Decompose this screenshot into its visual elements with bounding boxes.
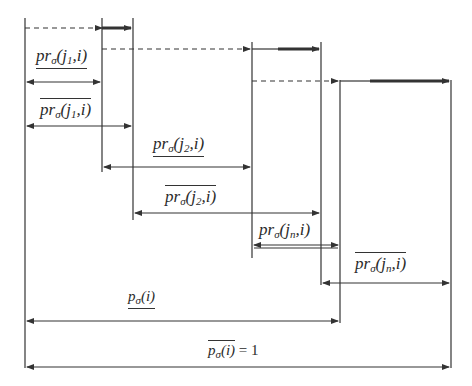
label-p-lower: pσ(i)	[128, 289, 155, 309]
label-pr-lower-j2: prσ(j2,i)	[153, 135, 204, 157]
label-pr-upper-j2: prσ(j2,i)	[165, 185, 216, 207]
label-p-upper: pσ(i) = 1	[208, 340, 259, 360]
label-pr-lower-jn: prσ(jn,i)	[259, 221, 310, 240]
label-pr-upper-j1: prσ(j1,i)	[40, 98, 91, 120]
label-pr-lower-j1: prσ(j1,i)	[36, 47, 87, 69]
label-pr-upper-jn: prσ(jn,i)	[355, 252, 406, 274]
